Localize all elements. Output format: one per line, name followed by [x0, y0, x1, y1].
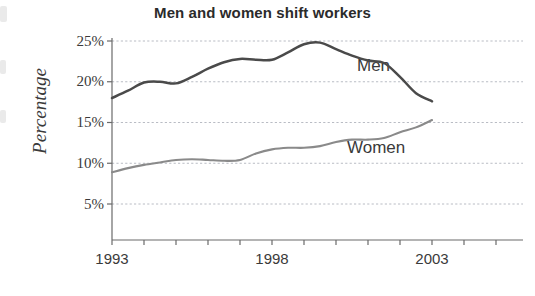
plot-area	[0, 0, 535, 296]
series-line-women	[112, 120, 432, 172]
series-line-men	[112, 42, 432, 101]
chart-canvas: Men and women shift workers Percentage 2…	[0, 0, 535, 296]
